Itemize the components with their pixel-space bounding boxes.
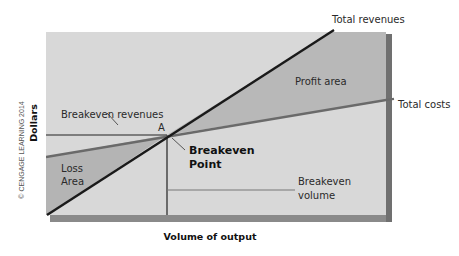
copyright-credit: © CENGAGE LEARNING 2014: [18, 101, 25, 198]
breakeven-volume-label-1: Breakeven: [298, 176, 351, 187]
breakeven-point-label-2: Point: [189, 158, 221, 171]
total-costs-line-ext: [386, 99, 394, 100]
panel-shadow-right: [386, 34, 392, 222]
loss-area-label-2: Area: [61, 176, 84, 187]
x-axis-label: Volume of output: [164, 231, 257, 242]
breakeven-volume-label-2: volume: [298, 190, 335, 201]
y-axis-label: Dollars: [28, 104, 39, 142]
breakeven-revenues-label: Breakeven revenues: [61, 109, 163, 120]
loss-area-label-1: Loss: [61, 163, 83, 174]
total-revenues-label: Total revenues: [331, 14, 405, 25]
point-a-label: A: [158, 122, 165, 133]
total-costs-label: Total costs: [397, 99, 451, 110]
breakeven-point-label-1: Breakeven: [189, 144, 255, 157]
profit-area-label: Profit area: [295, 76, 347, 87]
breakeven-chart: Total revenues Total costs Profit area B…: [0, 0, 459, 256]
